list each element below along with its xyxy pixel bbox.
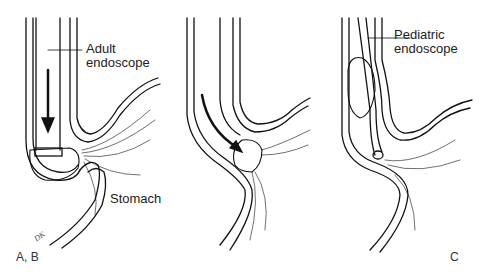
adult-label-line2: endoscope xyxy=(86,56,150,70)
adult-label-line1: Adult xyxy=(86,42,150,56)
panel-label-c: C xyxy=(450,250,459,264)
panel-label-ab: A, B xyxy=(16,250,39,264)
pediatric-label-line1: Pediatric xyxy=(394,28,458,42)
panel-b-esophagus xyxy=(187,18,310,250)
stomach-label: Stomach xyxy=(110,192,161,206)
pediatric-endoscope-label: Pediatric endoscope xyxy=(394,28,458,56)
pediatric-label-line2: endoscope xyxy=(394,42,458,56)
adult-endoscope-label: Adult endoscope xyxy=(86,42,150,70)
